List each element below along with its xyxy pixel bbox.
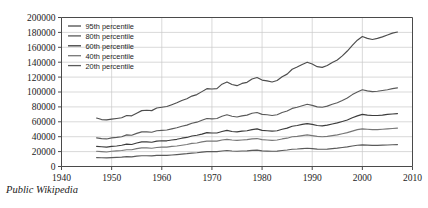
y-tick-label: 120000 (27, 73, 56, 83)
x-tick-label: 1980 (253, 173, 272, 183)
y-tick-label: 180000 (27, 28, 56, 38)
legend-label-3: 40th percentile (86, 52, 134, 61)
x-tick-label: 2010 (403, 173, 422, 183)
series-line-60th-percentile (97, 114, 398, 148)
y-tick-label: 100000 (27, 87, 56, 97)
legend-label-4: 20th percentile (86, 62, 134, 71)
legend-label-2: 60th percentile (86, 42, 134, 51)
y-tick-label: 40000 (32, 132, 56, 142)
y-tick-label: 60000 (32, 117, 56, 127)
chart-canvas: 0200004000060000800001000001200001400001… (0, 0, 428, 208)
y-tick-label: 140000 (27, 58, 56, 68)
y-tick-label: 20000 (32, 147, 56, 157)
x-tick-label: 1950 (102, 173, 121, 183)
x-tick-label: 1970 (202, 173, 221, 183)
y-tick-label: 0 (51, 162, 56, 172)
legend-label-0: 95th percentile (86, 22, 134, 31)
y-tick-label: 200000 (27, 13, 56, 23)
income-percentile-chart: 0200004000060000800001000001200001400001… (0, 0, 428, 208)
x-tick-label: 2000 (353, 173, 372, 183)
x-tick-label: 1990 (303, 173, 322, 183)
x-tick-label: 1940 (52, 173, 71, 183)
y-tick-label: 80000 (32, 102, 56, 112)
chart-caption: Public Wikipedia (6, 184, 78, 195)
x-tick-label: 1960 (152, 173, 171, 183)
y-tick-label: 160000 (27, 43, 56, 53)
legend-label-1: 80th percentile (86, 32, 134, 41)
